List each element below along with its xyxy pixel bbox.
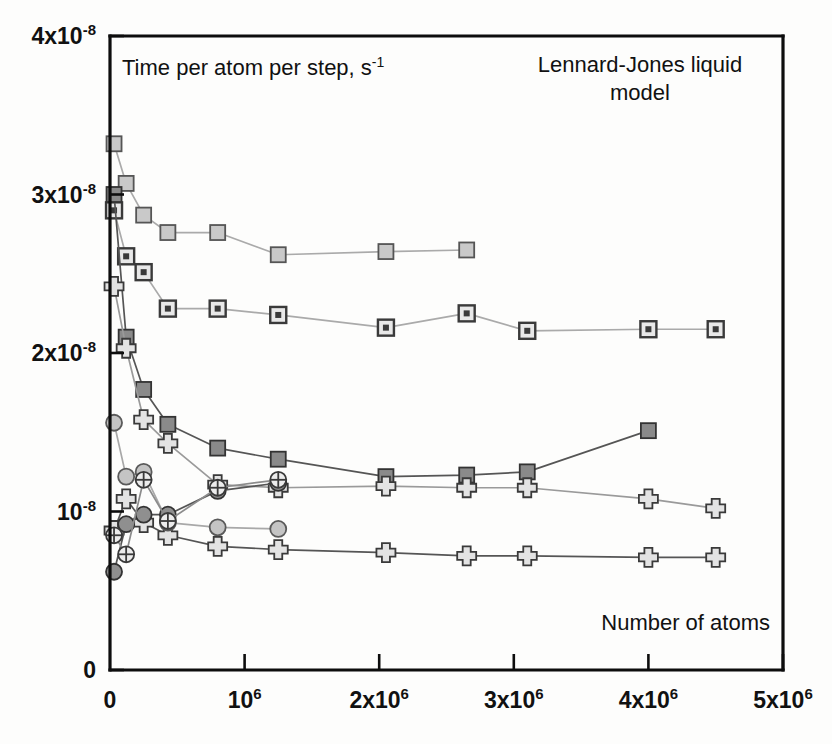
- x-tick-sup-4: 6: [670, 685, 678, 702]
- y-tick-label-1: 10-8: [57, 497, 96, 525]
- x-tick-sup-2: 6: [401, 685, 409, 702]
- marker-light-square-series-5: [271, 247, 286, 262]
- figure-canvas: 010-82x10-83x10-84x10-8 01062x1063x1064x…: [0, 0, 832, 744]
- x-tick-base-3: 3x10: [484, 687, 535, 713]
- marker-dotted-square-series-2-dot: [141, 269, 147, 275]
- marker-dotted-square-series-4-dot: [215, 306, 221, 312]
- x-tick-label-1: 106: [228, 685, 262, 713]
- series-layer: [105, 136, 726, 579]
- series-dotted-square-series: [106, 202, 724, 338]
- plot-title-line2: model: [610, 80, 670, 105]
- marker-dark-square-series-5: [271, 452, 286, 467]
- y-tick-sup-4: -8: [83, 21, 96, 38]
- x-tick-label-5: 5x106: [753, 685, 813, 713]
- x-tick-base-0: 0: [104, 687, 117, 713]
- series-light-square-series: [107, 136, 475, 262]
- marker-dotted-square-series-5-dot: [275, 312, 281, 318]
- x-tick-label-2: 2x106: [349, 685, 409, 713]
- series-line-dotted-square-series: [114, 210, 716, 330]
- marker-dotted-square-series-8-dot: [524, 328, 530, 334]
- y-tick-base-2: 2x10: [31, 340, 82, 366]
- y-tick-base-1: 10: [57, 499, 83, 525]
- y-tick-label-4: 4x10-8: [31, 21, 96, 49]
- x-tick-sup-5: 6: [804, 685, 812, 702]
- y-tick-label-2: 2x10-8: [31, 338, 96, 366]
- x-tick-layer: 01062x1063x1064x1065x106: [104, 654, 813, 713]
- plot-title-line1: Lennard-Jones liquid: [538, 52, 742, 77]
- marker-lower-cross-series-1: [117, 489, 136, 508]
- y-tick-label-3: 3x10-8: [31, 180, 96, 208]
- marker-dark-circle-series-2: [136, 507, 152, 523]
- marker-dotted-square-series-10-dot: [713, 326, 719, 332]
- y-tick-sup-2: -8: [83, 338, 96, 355]
- marker-dark-square-series-8: [520, 464, 535, 479]
- marker-upper-cross-series-8: [518, 478, 537, 497]
- x-tick-base-5: 5x10: [753, 687, 804, 713]
- x-tick-base-2: 2x10: [349, 687, 400, 713]
- marker-lower-cross-series-10: [706, 548, 725, 567]
- y-tick-label-0: 0: [83, 657, 96, 683]
- x-tick-sup-3: 6: [535, 685, 543, 702]
- y-tick-base-3: 3x10: [31, 182, 82, 208]
- x-tick-label-0: 0: [104, 687, 117, 713]
- axis-frame: [110, 36, 783, 670]
- marker-upper-cross-series-10: [706, 499, 725, 518]
- x-tick-sup-1: 6: [253, 685, 261, 702]
- marker-dotted-square-series-7-dot: [464, 310, 470, 316]
- chart-plot: 010-82x10-83x10-84x10-8 01062x1063x1064x…: [0, 0, 832, 744]
- marker-dark-square-series-3: [160, 417, 175, 432]
- series-line-lower-cross-series: [114, 499, 716, 558]
- marker-dotted-square-series-3-dot: [165, 306, 171, 312]
- marker-light-circle-series-5: [270, 521, 286, 537]
- marker-dotted-square-series-1-dot: [123, 253, 129, 259]
- marker-light-square-series-3: [160, 225, 175, 240]
- marker-lower-cross-series-6: [376, 543, 395, 562]
- x-tick-base-4: 4x10: [619, 687, 670, 713]
- x-axis-caption: Number of atoms: [601, 610, 770, 635]
- y-tick-base-0: 0: [83, 657, 96, 683]
- marker-lower-cross-series-8: [518, 546, 537, 565]
- marker-light-circle-series-1: [118, 469, 134, 485]
- y-tick-sup-1: -8: [83, 497, 96, 514]
- marker-dotted-square-series-9-dot: [645, 326, 651, 332]
- x-tick-label-4: 4x106: [619, 685, 679, 713]
- marker-dark-square-series-4: [210, 441, 225, 456]
- y-axis-caption-main: Time per atom per step, s: [122, 55, 372, 80]
- marker-lower-cross-series-4: [208, 537, 227, 556]
- marker-dotted-square-series-6-dot: [383, 325, 389, 331]
- y-tick-sup-3: -8: [83, 180, 96, 197]
- y-tick-base-4: 4x10: [31, 23, 82, 49]
- y-axis-caption-sup: -1: [372, 54, 385, 70]
- marker-light-square-series-6: [378, 244, 393, 259]
- marker-light-square-series-4: [210, 225, 225, 240]
- marker-dark-square-series-9: [641, 423, 656, 438]
- y-axis-caption: Time per atom per step, s-1: [122, 54, 385, 80]
- x-tick-base-1: 10: [228, 687, 254, 713]
- marker-upper-cross-series-9: [639, 489, 658, 508]
- marker-light-circle-series-4: [210, 519, 226, 535]
- series-line-upper-cross-series: [114, 286, 716, 508]
- marker-lower-cross-series-9: [639, 548, 658, 567]
- series-upper-cross-series: [105, 277, 726, 518]
- marker-lower-cross-series-5: [269, 540, 288, 559]
- x-tick-label-3: 3x106: [484, 685, 544, 713]
- marker-light-square-series-2: [136, 208, 151, 223]
- marker-light-square-series-7: [459, 242, 474, 257]
- marker-lower-cross-series-7: [457, 546, 476, 565]
